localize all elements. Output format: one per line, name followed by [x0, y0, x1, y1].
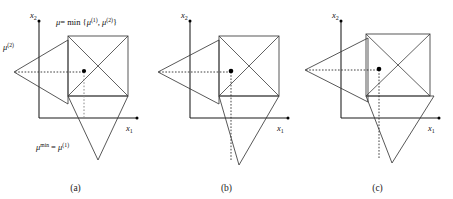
axes-group-a — [38, 20, 139, 120]
down-triangle — [366, 96, 434, 163]
x-axis-label: x1 — [276, 123, 284, 134]
mu-min-top-label: μ= min {μ(1), μ(2)} — [55, 17, 117, 27]
solution-point — [82, 69, 86, 73]
panel-a-drawing: x2 x1 μ= min {μ(1), μ(2)} μ(2) μmin = μ(… — [0, 0, 151, 180]
down-triangle — [68, 96, 128, 160]
panel-a: x2 x1 μ= min {μ(1), μ(2)} μ(2) μmin = μ(… — [0, 0, 151, 199]
y-axis-label: x2 — [29, 10, 37, 21]
x-axis-arrowhead — [136, 117, 139, 120]
x-axis-label: x1 — [125, 123, 133, 134]
down-triangle — [219, 96, 279, 165]
panel-c: x2 x1 (c) — [302, 0, 453, 199]
figure-container: x2 x1 μ= min {μ(1), μ(2)} μ(2) μmin = μ(… — [0, 0, 453, 199]
y-axis-arrowhead — [189, 20, 192, 23]
solution-point — [377, 67, 382, 72]
y-axis-arrowhead — [38, 20, 41, 23]
panel-c-drawing: x2 x1 — [302, 0, 453, 180]
y-axis-arrowhead — [340, 20, 343, 23]
axes-group-c — [340, 20, 441, 120]
y-axis-label: x2 — [331, 10, 339, 21]
panel-a-caption: (a) — [0, 183, 151, 193]
panel-c-caption: (c) — [302, 183, 453, 193]
panel-b-caption: (b) — [151, 183, 302, 193]
solution-point — [229, 69, 234, 74]
x-axis-arrowhead — [287, 117, 290, 120]
panel-b: x2 x1 (b) — [151, 0, 302, 199]
mu-min-equals-mu1-label: μmin = μ(1) — [35, 142, 69, 152]
mu-2-label: μ(2) — [2, 42, 14, 52]
y-axis-label: x2 — [180, 10, 188, 21]
panel-b-drawing: x2 x1 — [151, 0, 302, 180]
x-axis-arrowhead — [438, 117, 441, 120]
x-axis-label: x1 — [427, 123, 435, 134]
